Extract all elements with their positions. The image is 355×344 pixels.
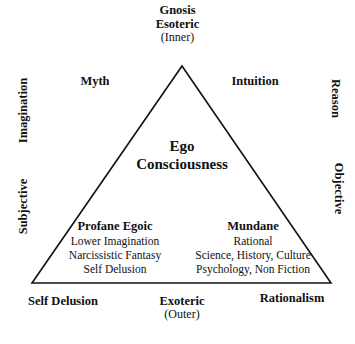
label-subjective: Subjective (16, 165, 31, 249)
label-rationalism: Rationalism (238, 291, 346, 305)
block-profane-egoic-line-1: Lower Imagination (50, 234, 180, 248)
label-objective: Objective (331, 147, 346, 231)
block-mundane-line-3: Psychology, Non Fiction (183, 262, 323, 276)
block-mundane-line-2: Science, History, Culture (183, 248, 323, 262)
label-imagination: Imagination (16, 64, 31, 158)
center-label-ego-consciousness: Ego Consciousness (77, 137, 287, 173)
label-outer: (Outer) (132, 308, 232, 321)
label-intuition: Intuition (212, 74, 298, 88)
apex-label-gnosis: Gnosis (0, 3, 355, 17)
apex-label-esoteric: Esoteric (0, 17, 355, 31)
center-label-line2: Consciousness (77, 155, 287, 173)
center-label-line1: Ego (77, 137, 287, 155)
block-profane-egoic: Profane Egoic Lower Imagination Narcissi… (50, 219, 180, 276)
block-mundane: Mundane Rational Science, History, Cultu… (183, 219, 323, 276)
label-exoteric: Exoteric (132, 294, 232, 308)
label-reason: Reason (328, 62, 343, 136)
block-profane-egoic-line-3: Self Delusion (50, 262, 180, 276)
block-mundane-title: Mundane (183, 219, 323, 234)
bottom-label-group: Exoteric (Outer) (132, 294, 232, 321)
block-mundane-line-1: Rational (183, 234, 323, 248)
block-profane-egoic-line-2: Narcissistic Fantasy (50, 248, 180, 262)
label-self-delusion: Self Delusion (8, 294, 118, 308)
block-profane-egoic-title: Profane Egoic (50, 219, 180, 234)
apex-label-group: Gnosis Esoteric (Inner) (0, 3, 355, 44)
apex-label-inner: (Inner) (0, 31, 355, 44)
label-myth: Myth (60, 74, 130, 88)
